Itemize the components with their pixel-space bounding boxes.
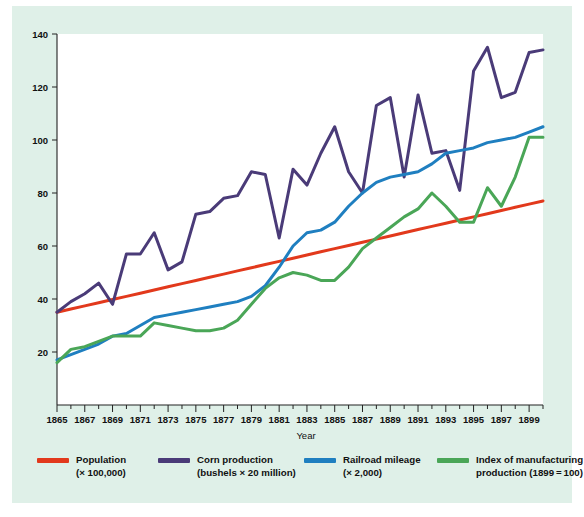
- legend-item-index-of-manufacturing: Index of manufacturingproduction (1899 =…: [437, 454, 583, 479]
- y-tick-label: 100: [32, 135, 48, 146]
- y-tick-label: 60: [37, 241, 48, 252]
- x-tick-label: 1869: [102, 414, 123, 425]
- x-tick-label: 1897: [491, 414, 512, 425]
- legend-item-corn-production: Corn production(bushels × 20 million): [158, 454, 296, 479]
- x-tick-label: 1871: [130, 414, 152, 425]
- y-tick-label: 120: [32, 82, 48, 93]
- legend-label-line2: production (1899 = 100): [476, 467, 583, 480]
- x-tick-label: 1867: [74, 414, 95, 425]
- x-tick-label: 1881: [269, 414, 291, 425]
- legend-swatch-icon: [437, 458, 469, 463]
- legend-label: Population(× 100,000): [76, 454, 126, 479]
- x-tick-label: 1879: [241, 414, 262, 425]
- y-tick-label: 20: [37, 347, 48, 358]
- x-tick-label: 1877: [213, 414, 234, 425]
- x-tick-label: 1899: [519, 414, 540, 425]
- legend-swatch-icon: [158, 458, 190, 463]
- x-tick-label: 1887: [352, 414, 373, 425]
- chart-figure: 20406080100120140 1865186718691871187318…: [0, 0, 584, 517]
- legend-label: Corn production(bushels × 20 million): [197, 454, 296, 479]
- legend-label: Index of manufacturingproduction (1899 =…: [476, 454, 583, 479]
- y-tick-label: 140: [32, 29, 48, 40]
- x-axis: 1865186718691871187318751877187918811883…: [46, 405, 543, 425]
- chart-legend: Population(× 100,000)Corn production(bus…: [12, 448, 572, 500]
- legend-label: Railroad mileage(× 2,000): [343, 454, 421, 479]
- x-tick-label: 1883: [296, 414, 317, 425]
- legend-label-line2: (bushels × 20 million): [197, 467, 296, 480]
- x-tick-label: 1893: [435, 414, 456, 425]
- line-chart: 20406080100120140 1865186718691871187318…: [0, 0, 584, 517]
- legend-label-line1: Corn production: [197, 454, 273, 465]
- legend-item-population: Population(× 100,000): [37, 454, 126, 479]
- x-tick-label: 1875: [185, 414, 207, 425]
- x-axis-title: Year: [296, 430, 315, 441]
- y-axis: 20406080100120140: [32, 29, 57, 406]
- x-tick-label: 1873: [158, 414, 179, 425]
- x-tick-label: 1891: [407, 414, 429, 425]
- x-tick-label: 1895: [463, 414, 485, 425]
- legend-label-line1: Index of manufacturing: [476, 454, 583, 465]
- legend-label-line2: (× 100,000): [76, 467, 126, 480]
- legend-item-railroad-mileage: Railroad mileage(× 2,000): [304, 454, 421, 479]
- legend-label-line2: (× 2,000): [343, 467, 421, 480]
- legend-swatch-icon: [304, 458, 336, 463]
- legend-label-line1: Population: [76, 454, 126, 465]
- legend-swatch-icon: [37, 458, 69, 463]
- y-tick-label: 80: [37, 188, 48, 199]
- x-tick-label: 1889: [380, 414, 401, 425]
- x-tick-label: 1865: [46, 414, 68, 425]
- y-tick-label: 40: [37, 294, 48, 305]
- legend-label-line1: Railroad mileage: [343, 454, 421, 465]
- x-tick-label: 1885: [324, 414, 346, 425]
